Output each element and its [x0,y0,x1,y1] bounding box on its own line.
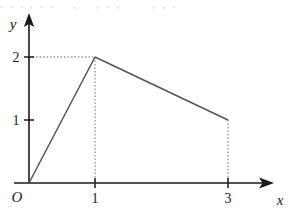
graph-plot: y x O 2 1 1 3 [0,0,294,216]
x-tick-label-1: 1 [92,191,99,206]
guide-lines [29,57,228,183]
curve-segment-rising [29,57,95,183]
tick-marks [24,57,228,188]
labels: y x O 2 1 1 3 [8,16,284,208]
y-tick-label-2: 2 [13,50,20,65]
curve-segment-falling [95,57,228,120]
y-tick-label-1: 1 [13,113,20,128]
x-tick-label-3: 3 [225,191,232,206]
axes [14,13,274,188]
x-axis-label: x [276,192,284,208]
origin-label: O [12,189,23,205]
data-series-piecewise-linear [29,57,228,183]
figure-root: . . . , . . _ , _ , . , _ _ , , . [0,0,294,216]
y-axis-label: y [8,16,17,32]
